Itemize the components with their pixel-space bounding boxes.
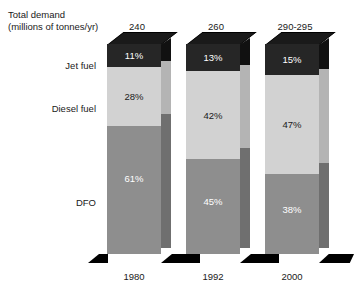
stacked-bar-chart: Total demand (millions of tonnes/yr) 240… xyxy=(0,0,357,293)
bar-2000[interactable]: 15% 47% 38% xyxy=(265,44,319,254)
bar-1992[interactable]: 13% 42% 45% xyxy=(186,44,240,254)
x-axis-label-1992: 1992 xyxy=(179,271,247,282)
bar-1980-side-diesel xyxy=(161,61,171,120)
bar-2000-segment-diesel-fuel[interactable]: 47% xyxy=(265,75,319,174)
bar-1980-label-dfo: 61% xyxy=(107,173,161,184)
bar-1992-segment-jet-fuel[interactable]: 13% xyxy=(186,44,240,71)
bar-1980-side-dfo xyxy=(161,114,171,248)
bar-2000-segment-dfo[interactable]: 38% xyxy=(265,174,319,254)
bar-2000-label-dfo: 38% xyxy=(265,204,319,215)
bar-1980-label-diesel-fuel: 28% xyxy=(107,91,161,102)
total-demand-value-1992: 260 xyxy=(186,21,246,32)
ground-wedge-1 xyxy=(161,254,200,263)
bar-2000-label-diesel-fuel: 47% xyxy=(265,119,319,130)
bar-2000-segment-jet-fuel[interactable]: 15% xyxy=(265,44,319,75)
bar-1992-side-diesel xyxy=(240,65,250,153)
chart-header-line-1: Total demand xyxy=(8,9,65,20)
bar-1992-label-diesel-fuel: 42% xyxy=(186,110,240,121)
ground-wedge-2 xyxy=(240,254,279,263)
bar-1992-side-dfo xyxy=(240,148,250,248)
bar-1980[interactable]: 11% 28% 61% xyxy=(107,44,161,254)
x-axis-label-2000: 2000 xyxy=(258,271,326,282)
series-label-diesel-fuel: Diesel fuel xyxy=(0,103,96,114)
bar-1992-label-jet-fuel: 13% xyxy=(186,52,240,63)
total-demand-value-2000: 290-295 xyxy=(262,21,328,32)
bar-1992-label-dfo: 45% xyxy=(186,196,240,207)
bar-2000-side-diesel xyxy=(319,69,329,168)
bar-1980-segment-diesel-fuel[interactable]: 28% xyxy=(107,67,161,126)
series-label-dfo: DFO xyxy=(0,197,96,208)
chart-header-line-2: (millions of tonnes/yr) xyxy=(8,21,98,32)
series-label-jet-fuel: Jet fuel xyxy=(0,60,96,71)
bar-2000-side-dfo xyxy=(319,163,329,248)
bar-1980-segment-dfo[interactable]: 61% xyxy=(107,126,161,254)
bar-1992-segment-diesel-fuel[interactable]: 42% xyxy=(186,71,240,159)
bar-1992-segment-dfo[interactable]: 45% xyxy=(186,159,240,254)
bar-2000-label-jet-fuel: 15% xyxy=(265,54,319,65)
total-demand-value-1980: 240 xyxy=(107,21,167,32)
bar-1980-label-jet-fuel: 11% xyxy=(107,50,161,61)
ground-wedge-left xyxy=(88,254,108,263)
bar-1980-segment-jet-fuel[interactable]: 11% xyxy=(107,44,161,67)
x-axis-label-1980: 1980 xyxy=(100,271,168,282)
ground-wedge-right xyxy=(319,254,354,263)
